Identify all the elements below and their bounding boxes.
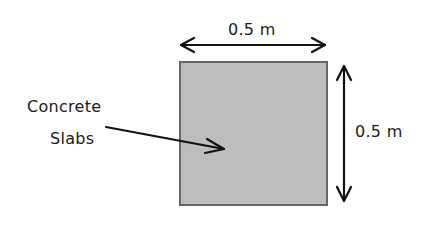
- height-label: 0.5 m: [355, 124, 403, 140]
- callout-label-line2: Slabs: [50, 131, 94, 147]
- height-dimension-arrow: [337, 66, 351, 201]
- width-dimension-arrow: [181, 38, 325, 52]
- callout-arrow: [106, 127, 224, 153]
- diagram-canvas: 0.5 m 0.5 m Concrete Slabs: [0, 0, 443, 231]
- width-label: 0.5 m: [228, 22, 276, 38]
- callout-label-line1: Concrete: [27, 99, 102, 115]
